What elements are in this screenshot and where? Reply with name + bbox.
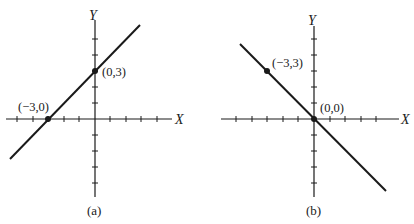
figure-a: (−3,0) (0,3) Y X (a) (6, 8, 184, 218)
point-neg3-0 (45, 116, 51, 122)
point-neg3-3 (264, 68, 270, 74)
point-0-0 (311, 116, 317, 122)
caption-a: (a) (87, 203, 101, 218)
y-axis-label-a: Y (89, 8, 99, 23)
point-label-a1: (−3,0) (18, 100, 49, 114)
figure-b: (−3,3) (0,0) Y X (b) (221, 13, 410, 218)
point-label-b2: (0,0) (320, 101, 344, 115)
point-label-b1: (−3,3) (272, 56, 303, 70)
graph-line-a (10, 25, 140, 159)
point-label-a2: (0,3) (102, 65, 126, 79)
x-axis-label-b: X (400, 112, 410, 127)
y-axis-label-b: Y (308, 13, 318, 28)
x-axis-label-a: X (174, 112, 184, 127)
caption-b: (b) (306, 203, 321, 218)
point-0-3 (92, 68, 98, 74)
